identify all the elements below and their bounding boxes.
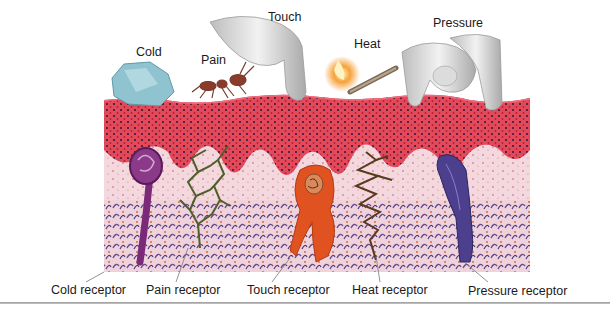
receptor-label-pain: Pain receptor (146, 284, 220, 297)
bottom-divider (0, 302, 610, 304)
skin-receptor-diagram: Cold Pain Touch Heat Pressure Cold recep… (0, 0, 610, 312)
stimulus-label-cold: Cold (136, 46, 162, 59)
ant-icon (192, 62, 254, 98)
stimulus-label-pressure: Pressure (433, 17, 483, 30)
stimulus-label-heat: Heat (354, 38, 380, 51)
stimulus-label-pain: Pain (201, 54, 226, 67)
receptor-label-touch: Touch receptor (247, 284, 330, 297)
lit-match-icon (324, 56, 396, 92)
receptor-label-pressure: Pressure receptor (468, 285, 567, 298)
receptor-label-cold: Cold receptor (51, 284, 126, 297)
receptor-label-heat: Heat receptor (352, 284, 428, 297)
stimulus-label-touch: Touch (268, 11, 301, 24)
diagram-illustration (0, 0, 610, 312)
